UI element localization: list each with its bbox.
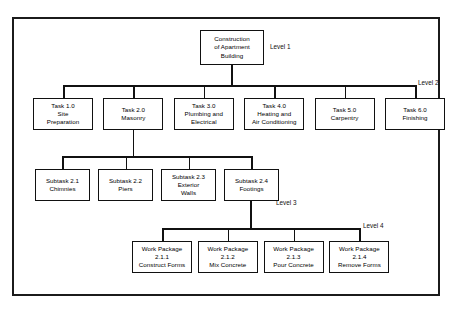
node-subtask-2-3-line3: Walls — [181, 189, 196, 197]
node-work-package-2-1-4[interactable]: Work Package 2.1.4 Remove Forms — [329, 241, 389, 273]
node-task-1-0-line2: Site — [58, 110, 69, 118]
node-task-1-0-line3: Preparation — [47, 118, 80, 126]
node-task-2-0-line2: Masonry — [121, 114, 145, 122]
connector-level2-stub-3 — [204, 85, 206, 99]
node-task-3-0-line1: Task 3.0 — [192, 102, 215, 110]
connector-level4-stub-2 — [228, 228, 230, 242]
connector-level2-stub-1 — [63, 85, 65, 99]
connector-level2-stub-2 — [133, 85, 135, 99]
node-subtask-2-4-line1: Subtask 2.4 — [235, 177, 268, 185]
node-task-5-0[interactable]: Task 5.0 Carpentry — [315, 98, 375, 130]
node-root-line1: Construction — [214, 35, 249, 43]
node-subtask-2-3-line1: Subtask 2.3 — [172, 173, 205, 181]
node-wp-2-1-2-line2: 2.1.2 — [221, 253, 235, 261]
node-task-2-0-line1: Task 2.0 — [122, 106, 145, 114]
node-task-5-0-line2: Carpentry — [331, 114, 359, 122]
node-wp-2-1-4-line3: Remove Forms — [338, 261, 381, 269]
node-wp-2-1-4-line1: Work Package — [339, 245, 380, 253]
node-task-3-0-line2: Plumbing and — [185, 110, 223, 118]
figure-frame: Construction of Apartment Building Level… — [12, 17, 440, 296]
node-subtask-2-4[interactable]: Subtask 2.4 Footings — [224, 169, 279, 201]
connector-masonry-drop — [133, 130, 135, 157]
connector-level3-bus — [62, 156, 251, 158]
node-subtask-2-1[interactable]: Subtask 2.1 Chimnies — [35, 169, 90, 201]
node-wp-2-1-2-line3: Mix Concrete — [209, 261, 246, 269]
connector-level4-stub-3 — [294, 228, 296, 242]
connector-level4-stub-4 — [359, 228, 361, 242]
node-wp-2-1-3-line3: Pour Concrete — [273, 261, 314, 269]
node-subtask-2-2-line1: Subtask 2.2 — [109, 177, 142, 185]
node-wp-2-1-1-line3: Construct Forms — [139, 261, 185, 269]
connector-level3-stub-2 — [126, 156, 128, 170]
node-task-3-0-line3: Electrical — [191, 118, 217, 126]
node-task-5-0-line1: Task 5.0 — [333, 106, 356, 114]
connector-level2-bus — [63, 85, 415, 87]
connector-footings-drop — [250, 201, 252, 229]
node-task-6-0-line2: Finishing — [402, 114, 427, 122]
node-work-package-2-1-1[interactable]: Work Package 2.1.1 Construct Forms — [132, 241, 192, 273]
node-subtask-2-4-line2: Footings — [239, 185, 263, 193]
node-task-4-0-line2: Heating and — [257, 110, 291, 118]
node-wp-2-1-1-line2: 2.1.1 — [155, 253, 169, 261]
node-task-3-0[interactable]: Task 3.0 Plumbing and Electrical — [174, 98, 234, 130]
node-subtask-2-3-line2: Exterior — [178, 181, 200, 189]
node-wp-2-1-2-line1: Work Package — [207, 245, 248, 253]
node-work-package-2-1-3[interactable]: Work Package 2.1.3 Pour Concrete — [264, 241, 324, 273]
node-subtask-2-1-line1: Subtask 2.1 — [46, 177, 79, 185]
node-work-package-2-1-2[interactable]: Work Package 2.1.2 Mix Concrete — [198, 241, 258, 273]
node-root-line3: Building — [221, 52, 243, 60]
node-task-1-0-line1: Task 1.0 — [51, 102, 74, 110]
level-2-label: Level 2 — [418, 79, 439, 87]
node-subtask-2-3[interactable]: Subtask 2.3 Exterior Walls — [161, 169, 216, 201]
node-wp-2-1-4-line2: 2.1.4 — [352, 253, 366, 261]
level-4-label: Level 4 — [363, 222, 384, 230]
connector-level2-stub-6 — [415, 85, 417, 99]
node-task-6-0[interactable]: Task 6.0 Finishing — [385, 98, 445, 130]
node-wp-2-1-3-line2: 2.1.3 — [287, 253, 301, 261]
connector-level2-stub-5 — [345, 85, 347, 99]
node-task-4-0-line1: Task 4.0 — [262, 102, 285, 110]
node-subtask-2-2[interactable]: Subtask 2.2 Piers — [98, 169, 153, 201]
connector-level3-stub-1 — [62, 156, 64, 170]
connector-level4-bus — [162, 228, 360, 230]
connector-level3-stub-3 — [189, 156, 191, 170]
node-task-2-0[interactable]: Task 2.0 Masonry — [103, 98, 163, 130]
connector-level3-stub-4 — [251, 156, 253, 170]
connector-level2-stub-4 — [274, 85, 276, 99]
node-subtask-2-1-line2: Chimnies — [49, 185, 75, 193]
node-wp-2-1-3-line1: Work Package — [273, 245, 314, 253]
level-3-label: Level 3 — [276, 199, 297, 207]
node-task-4-0[interactable]: Task 4.0 Heating and Air Conditioning — [244, 98, 304, 130]
node-task-1-0[interactable]: Task 1.0 Site Preparation — [33, 98, 93, 130]
connector-root-drop — [231, 65, 233, 86]
level-1-label: Level 1 — [270, 43, 291, 51]
node-task-6-0-line1: Task 6.0 — [403, 106, 426, 114]
node-subtask-2-2-line2: Piers — [118, 185, 132, 193]
connector-level4-stub-1 — [162, 228, 164, 242]
node-wp-2-1-1-line1: Work Package — [142, 245, 183, 253]
node-task-4-0-line3: Air Conditioning — [252, 118, 296, 126]
node-root-line2: of Apartment — [214, 43, 250, 51]
node-root[interactable]: Construction of Apartment Building — [200, 30, 264, 65]
